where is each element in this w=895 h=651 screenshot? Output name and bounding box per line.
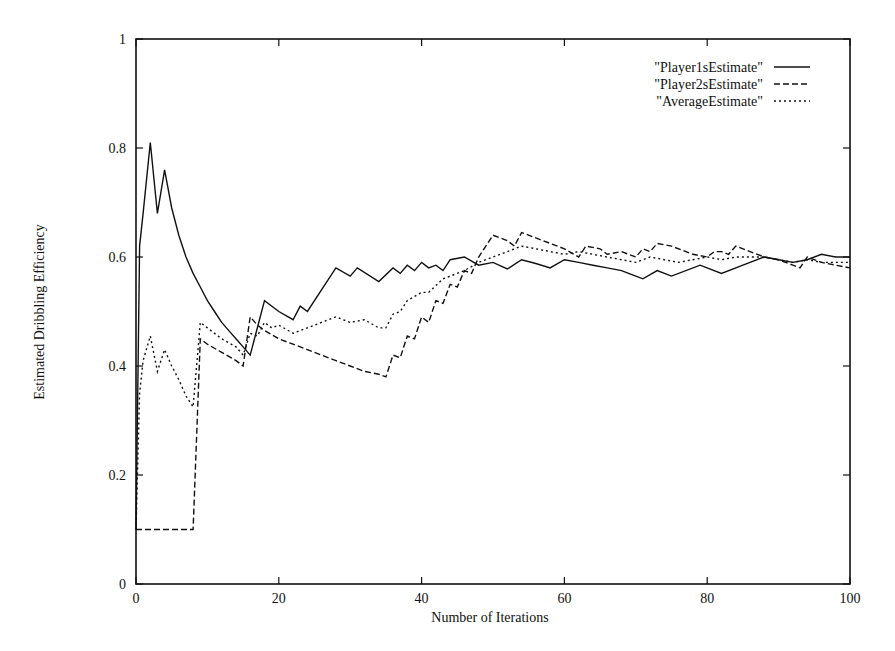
x-tick-label: 80 xyxy=(700,591,714,606)
axis-ticks: 02040608010000.20.40.60.81 xyxy=(109,32,861,606)
plot-frame xyxy=(136,39,850,584)
x-tick-label: 40 xyxy=(415,591,429,606)
y-tick-label: 0.8 xyxy=(109,141,127,156)
series-line-1 xyxy=(136,143,850,530)
line-chart: 02040608010000.20.40.60.81 Number of Ite… xyxy=(0,0,895,651)
y-axis-label: Estimated Dribbling Efficiency xyxy=(32,224,47,399)
x-tick-label: 0 xyxy=(133,591,140,606)
legend-label: "Player1sEstimate" xyxy=(654,60,763,75)
y-tick-label: 0.4 xyxy=(109,359,127,374)
y-tick-label: 0.2 xyxy=(109,468,127,483)
series-lines xyxy=(136,143,850,530)
y-tick-label: 1 xyxy=(119,32,126,47)
series-line-3 xyxy=(136,246,850,529)
x-tick-label: 20 xyxy=(272,591,286,606)
legend-label: "Player2sEstimate" xyxy=(654,77,763,92)
legend-label: "AverageEstimate" xyxy=(656,94,763,109)
legend: "Player1sEstimate""Player2sEstimate""Ave… xyxy=(654,60,810,109)
y-tick-label: 0 xyxy=(119,577,126,592)
series-line-2 xyxy=(136,233,850,530)
x-tick-label: 60 xyxy=(557,591,571,606)
x-tick-label: 100 xyxy=(840,591,861,606)
y-tick-label: 0.6 xyxy=(109,250,127,265)
x-axis-label: Number of Iterations xyxy=(431,610,548,625)
plot-border xyxy=(136,39,850,584)
